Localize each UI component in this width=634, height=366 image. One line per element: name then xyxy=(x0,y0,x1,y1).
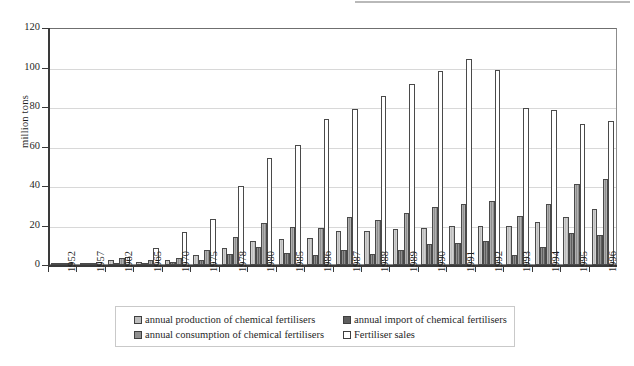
legend-label: annual import of chemical fertilisers xyxy=(354,314,507,326)
x-axis-tick xyxy=(247,265,248,272)
scan-artifact-line xyxy=(355,1,630,3)
x-axis-tick-label: 1996 xyxy=(607,226,618,272)
x-axis-tick xyxy=(589,265,590,272)
legend-item[interactable]: annual production of chemical fertiliser… xyxy=(134,314,315,326)
x-axis-tick xyxy=(389,265,390,272)
x-axis-tick xyxy=(560,265,561,272)
y-axis-title-holder: million tons xyxy=(0,0,48,266)
x-axis-tick xyxy=(475,265,476,272)
legend: annual production of chemical fertiliser… xyxy=(115,306,515,347)
x-axis-tick xyxy=(219,265,220,272)
legend-label: Fertiliser sales xyxy=(354,329,415,341)
legend-item[interactable]: Fertiliser sales xyxy=(343,329,415,341)
y-axis-title: million tons xyxy=(19,72,30,172)
legend-swatch-icon xyxy=(134,331,142,339)
legend-item[interactable]: annual consumption of chemical fertilise… xyxy=(134,329,324,341)
legend-swatch-icon xyxy=(343,331,351,339)
x-axis-tick xyxy=(48,265,49,272)
x-axis-tick xyxy=(133,265,134,272)
x-axis-tick xyxy=(361,265,362,272)
x-axis-tick xyxy=(532,265,533,272)
x-axis-tick xyxy=(418,265,419,272)
x-axis-tick xyxy=(304,265,305,272)
legend-label: annual production of chemical fertiliser… xyxy=(145,314,315,326)
x-axis-tick xyxy=(276,265,277,272)
x-axis-tick xyxy=(446,265,447,272)
legend-swatch-icon xyxy=(134,316,142,324)
x-axis-tick xyxy=(76,265,77,272)
legend-item[interactable]: annual import of chemical fertilisers xyxy=(343,314,507,326)
fertiliser-bar-chart: 020406080100120 195219571962196519701975… xyxy=(0,0,634,366)
x-axis-tick xyxy=(333,265,334,272)
x-axis-tick xyxy=(162,265,163,272)
legend-label: annual consumption of chemical fertilise… xyxy=(145,329,324,341)
legend-swatch-icon xyxy=(343,316,351,324)
x-axis-tick xyxy=(105,265,106,272)
x-axis-tick xyxy=(190,265,191,272)
x-axis-tick xyxy=(503,265,504,272)
